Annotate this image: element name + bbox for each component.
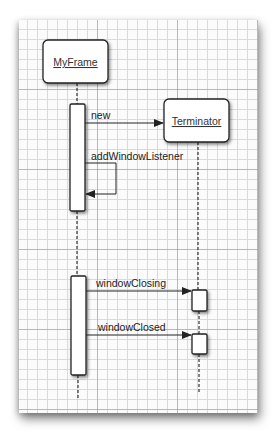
sequence-diagram: MyFrame Terminator new addWindowListener… — [0, 0, 273, 434]
activation-bar-myframe-2 — [71, 276, 86, 375]
object-label-myframe: MyFrame — [53, 56, 97, 68]
message-addwindowlistener: addWindowListener — [85, 150, 184, 194]
object-label-terminator: Terminator — [172, 115, 222, 127]
activation-bar-myframe-1 — [70, 104, 85, 211]
message-label-windowclosed: windowClosed — [97, 321, 166, 333]
message-new: new — [85, 109, 163, 123]
message-label-addwindowlistener: addWindowListener — [91, 150, 184, 162]
object-myframe: MyFrame — [43, 40, 108, 83]
message-label-new: new — [91, 109, 111, 121]
activation-bar-terminator-1 — [192, 290, 207, 311]
message-label-windowclosing: windowClosing — [95, 277, 166, 289]
message-windowclosing: windowClosing — [86, 277, 191, 291]
lifeline-terminator — [198, 142, 199, 393]
object-terminator: Terminator — [164, 99, 229, 142]
activation-bar-terminator-2 — [192, 334, 207, 354]
message-windowclosed: windowClosed — [86, 321, 191, 335]
